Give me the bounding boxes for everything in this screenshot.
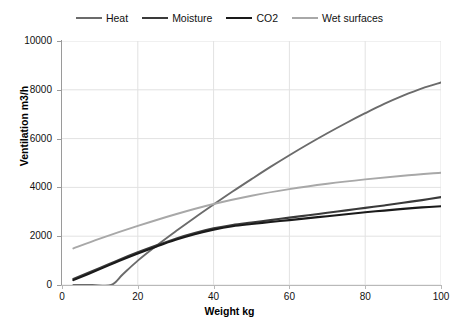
legend-label: CO2 bbox=[256, 13, 278, 24]
legend-swatch-icon bbox=[142, 17, 168, 19]
series-line-heat bbox=[73, 82, 441, 285]
chart-legend: HeatMoistureCO2Wet surfaces bbox=[0, 8, 459, 28]
y-tick-mark bbox=[57, 90, 61, 91]
legend-swatch-icon bbox=[76, 17, 102, 19]
legend-item-moisture[interactable]: Moisture bbox=[142, 13, 212, 24]
legend-label: Wet surfaces bbox=[322, 13, 383, 24]
x-tick-label: 40 bbox=[194, 292, 234, 302]
x-tick-mark bbox=[289, 285, 290, 289]
legend-item-heat[interactable]: Heat bbox=[76, 13, 128, 24]
x-axis-spine bbox=[61, 285, 442, 286]
y-tick-mark bbox=[57, 41, 61, 42]
x-tick-mark bbox=[441, 285, 442, 289]
legend-item-co2[interactable]: CO2 bbox=[226, 13, 278, 24]
ventilation-line-chart: HeatMoistureCO2Wet surfaces 100008000600… bbox=[0, 0, 459, 326]
x-tick-mark bbox=[214, 285, 215, 289]
y-tick-mark bbox=[57, 139, 61, 140]
legend-label: Heat bbox=[106, 13, 128, 24]
y-tick-mark bbox=[57, 285, 61, 286]
x-tick-label: 100 bbox=[421, 292, 459, 302]
y-tick-mark bbox=[57, 236, 61, 237]
y-tick-label: 0 bbox=[0, 280, 52, 290]
legend-item-wet-surfaces[interactable]: Wet surfaces bbox=[292, 13, 383, 24]
x-tick-label: 80 bbox=[345, 292, 385, 302]
x-tick-mark bbox=[62, 285, 63, 289]
x-tick-label: 60 bbox=[269, 292, 309, 302]
x-tick-label: 20 bbox=[118, 292, 158, 302]
legend-label: Moisture bbox=[172, 13, 212, 24]
x-tick-mark bbox=[138, 285, 139, 289]
series-lines bbox=[62, 41, 441, 285]
x-axis-title: Weight kg bbox=[0, 305, 459, 317]
y-tick-label: 2000 bbox=[0, 231, 52, 241]
legend-swatch-icon bbox=[226, 17, 252, 19]
x-tick-label: 0 bbox=[42, 292, 82, 302]
y-axis-title: Ventilation m3/h bbox=[18, 56, 30, 196]
x-tick-mark bbox=[365, 285, 366, 289]
legend-swatch-icon bbox=[292, 17, 318, 19]
y-tick-mark bbox=[57, 187, 61, 188]
y-tick-label: 10000 bbox=[0, 36, 52, 46]
plot-area bbox=[62, 41, 441, 285]
